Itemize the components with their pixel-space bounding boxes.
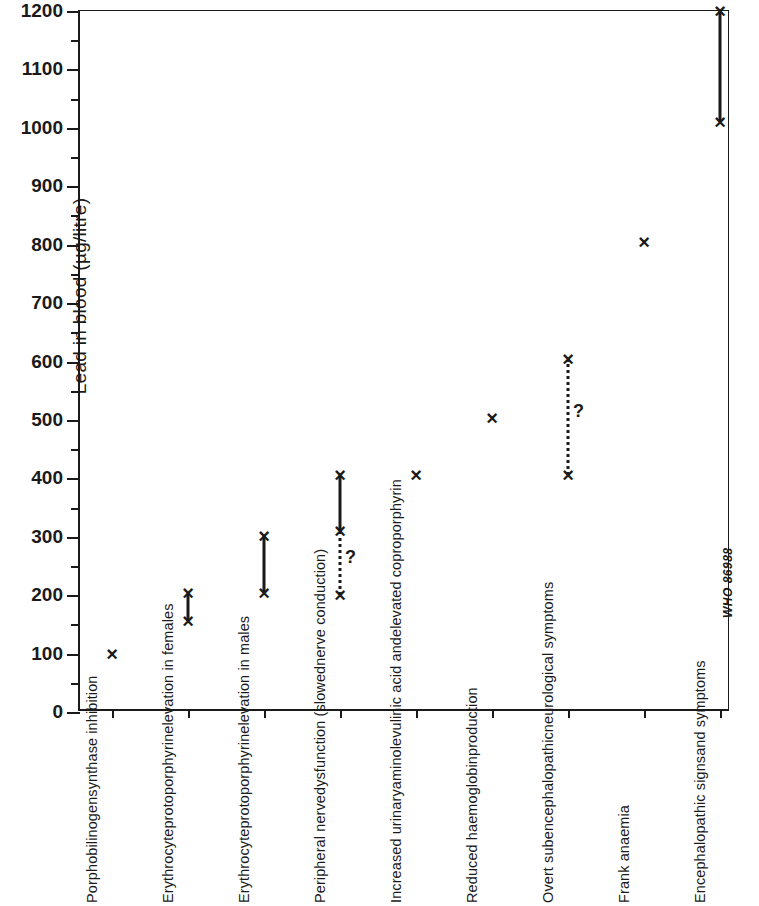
x-category-label-line: protoporphyrin [236,734,253,829]
data-point-marker: × [334,465,346,485]
x-category-label-lines: Erythrocyteprotoporphyrinelevation in ma… [236,616,253,903]
y-tick-label: 1000 [21,117,63,139]
y-minor-tick-mark [71,449,80,451]
x-category-label-line: synthase inhibition [84,675,101,796]
x-category-label: Encephalopathic signsand symptoms [709,723,710,903]
x-tick-mark [492,709,494,718]
x-category-label-line: Erythrocyte [236,829,253,903]
y-tick-label: 0 [52,701,63,723]
data-point-marker: × [714,112,726,132]
x-tick-mark [264,709,266,718]
y-tick-label: 900 [31,175,63,197]
y-tick-mark [67,712,80,714]
x-category-label-line: elevation in females [160,603,177,733]
x-category-label-line: Peripheral nerve [312,795,329,903]
y-tick-mark [67,420,80,422]
x-category-label-line-wrap: elevation in males [236,616,253,734]
data-point-marker: × [182,583,194,603]
x-category-label-line-wrap: Peripheral nerve [312,795,329,903]
range-connector-dotted [567,359,570,475]
y-tick-mark [67,478,80,480]
y-minor-tick-mark [71,274,80,276]
x-category-label-line-wrap: production [464,687,481,756]
x-category-label-line-wrap: protoporphyrin [160,734,177,829]
uncertainty-question-mark: ? [573,400,584,421]
y-tick-mark [67,303,80,305]
y-tick-mark [67,362,80,364]
data-point-marker: × [258,583,270,603]
x-category-label: Erythrocyteprotoporphyrinelevation in ma… [253,723,254,903]
x-tick-mark [416,709,418,718]
x-category-label-line: elevation in males [236,616,253,734]
x-category-label-lines: Porphobilinogensynthase inhibition [84,675,101,903]
x-category-label-line: Erythrocyte [160,829,177,903]
x-tick-mark [644,709,646,718]
data-point-marker: × [410,465,422,485]
y-tick-label: 700 [31,292,63,314]
y-tick-mark [67,128,80,130]
x-category-label-line-wrap: dysfunction (slowed [312,666,329,795]
x-category-label-line: production [464,687,481,756]
x-category-label-line-wrap: elevated coproporphyrin [388,479,405,637]
y-minor-tick-mark [71,624,80,626]
y-tick-mark [67,11,80,13]
x-category-label-line-wrap: elevation in females [160,603,177,733]
data-point-marker: × [334,521,346,541]
x-category-label-line-wrap: Porphobilinogen [84,797,101,903]
x-category-label-line: elevated coproporphyrin [388,479,405,637]
y-tick-label: 200 [31,584,63,606]
y-tick-label: 300 [31,526,63,548]
x-category-label-lines: Increased urinaryaminolevulinic acid and… [388,479,405,903]
x-category-label-line-wrap: Frank anaemia [616,805,633,903]
x-tick-mark [112,709,114,718]
x-category-label: Porphobilinogensynthase inhibition [101,723,102,903]
x-category-label-line-wrap: nerve conduction) [312,549,329,666]
x-category-label-line: aminolevulinic acid and [388,637,405,789]
x-category-label-line-wrap: and symptoms [692,660,709,756]
y-tick-label: 400 [31,467,63,489]
data-point-marker: × [182,611,194,631]
y-tick-mark [67,654,80,656]
y-tick-label: 1100 [22,58,63,80]
x-category-label-line-wrap: Erythrocyte [236,829,253,903]
y-tick-label: 800 [31,234,63,256]
data-point-marker: × [334,585,346,605]
x-category-label-lines: Encephalopathic signsand symptoms [692,660,709,903]
y-minor-tick-mark [71,157,80,159]
x-category-label-line-wrap: Increased urinary [388,789,405,903]
who-watermark: WHO 86988 [721,547,735,618]
x-category-label-line: Reduced haemoglobin [464,756,481,903]
x-category-label-line-wrap: Reduced haemoglobin [464,756,481,903]
y-minor-tick-mark [71,215,80,217]
x-category-label: Frank anaemia [633,723,634,903]
x-category-label: Reduced haemoglobinproduction [481,723,482,903]
x-category-label-line: Encephalopathic signs [692,756,709,903]
y-tick-mark [67,537,80,539]
x-tick-mark [340,709,342,718]
x-category-label-line: and symptoms [692,660,709,756]
x-category-label-line: Porphobilinogen [84,797,101,903]
x-category-label-lines: Overt subencephalopathicneurological sym… [540,582,557,903]
y-tick-label: 1200 [21,0,63,22]
x-category-label-line: nerve conduction) [312,549,329,666]
x-category-label-line: protoporphyrin [160,734,177,829]
lead-in-blood-chart-figure: Lead in blood (µg/litre) 010020030040050… [0,0,759,906]
x-category-label-line: Frank anaemia [616,805,633,903]
y-tick-mark [67,186,80,188]
data-point-marker: × [562,349,574,369]
x-category-label-lines: Erythrocyteprotoporphyrinelevation in fe… [160,603,177,903]
data-point-marker: × [562,465,574,485]
y-tick-mark [67,69,80,71]
y-minor-tick-mark [71,40,80,42]
x-category-label-line: Increased urinary [388,789,405,903]
x-category-label-line-wrap: aminolevulinic acid and [388,637,405,789]
data-point-marker: × [106,644,118,664]
x-tick-mark [568,709,570,718]
y-minor-tick-mark [71,566,80,568]
data-point-marker: × [258,526,270,546]
y-minor-tick-mark [71,508,80,510]
x-tick-mark [188,709,190,718]
x-category-label-line-wrap: neurological symptoms [540,582,557,732]
y-tick-label: 600 [31,351,63,373]
x-category-label-line: Overt subencephalopathic [540,732,557,903]
